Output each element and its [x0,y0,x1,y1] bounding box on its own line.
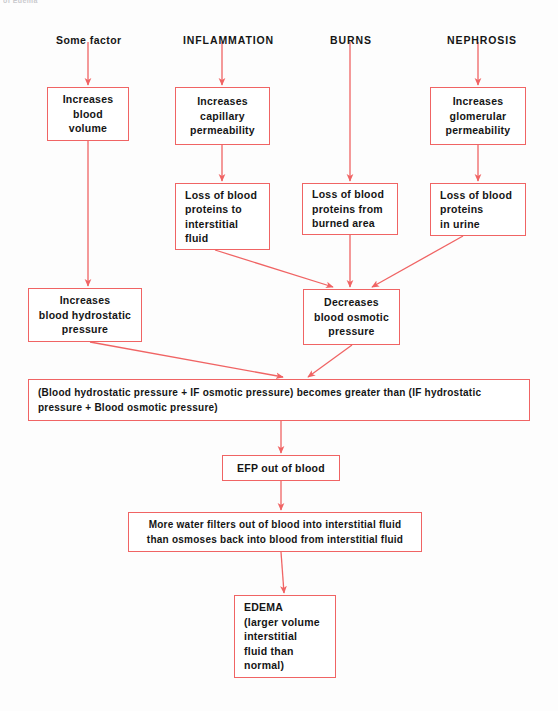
box-increases-blood-hydrostatic-pressure-line: blood hydrostatic [39,308,131,322]
box-increases-capillary-permeability-line: Increases [197,94,248,108]
box-increases-blood-hydrostatic-pressure-line: pressure [62,322,108,336]
box-decreases-blood-osmotic-pressure-line: pressure [328,324,374,338]
box-loss-proteins-interstitial-fluid-line: Loss of blood [185,188,257,202]
arrow-loss-urine-to-osmotic [372,236,463,287]
box-loss-proteins-interstitial-fluid-line: fluid [185,231,208,245]
box-decreases-blood-osmotic-pressure-line: blood osmotic [314,310,389,324]
box-increases-glomerular-permeability-line: Increases [453,94,504,108]
box-loss-proteins-burned-area-line: burned area [312,216,375,230]
box-edema-line: (larger volume [244,615,320,629]
box-edema: EDEMA(larger volumeinterstitialfluid tha… [234,595,336,678]
heading-nephrosis: NEPHROSIS [447,34,517,46]
arrow-loss-interstitial-to-osmotic [215,250,333,287]
box-pressure-inequality: (Blood hydrostatic pressure + IF osmotic… [28,379,530,421]
box-edema-line: normal) [244,658,284,672]
box-edema-line: interstitial [244,629,297,643]
box-decreases-blood-osmotic-pressure-line: Decreases [324,295,379,309]
box-loss-proteins-interstitial-fluid-line: proteins to [185,202,242,216]
box-increases-glomerular-permeability: Increasesglomerularpermeability [430,87,526,145]
box-loss-proteins-in-urine: Loss of bloodproteinsin urine [430,183,526,236]
box-loss-proteins-in-urine-line: Loss of blood [440,188,512,202]
box-efp-out-of-blood: EFP out of blood [222,455,340,481]
arrow-more-water-to-edema [281,552,284,593]
box-loss-proteins-burned-area-line: Loss of blood [312,187,384,201]
heading-burns: BURNS [330,34,372,46]
box-more-water-filters: More water filters out of blood into int… [128,512,422,552]
box-increases-glomerular-permeability-line: glomerular [450,109,507,123]
box-increases-blood-hydrostatic-pressure-line: Increases [60,293,111,307]
box-edema-line: fluid than [244,644,294,658]
box-loss-proteins-interstitial-fluid-line: interstitial [185,217,238,231]
box-edema-line: EDEMA [244,600,283,614]
box-pressure-inequality-line: pressure + Blood osmotic pressure) [38,400,218,415]
box-loss-proteins-interstitial-fluid: Loss of bloodproteins tointerstitialflui… [175,183,270,250]
flowchart-canvas: of Edema [0,0,558,711]
box-efp-out-of-blood-line: EFP out of blood [237,461,325,475]
box-increases-blood-volume-line: volume [69,121,107,135]
box-increases-capillary-permeability-line: capillary [200,109,245,123]
box-loss-proteins-burned-area: Loss of bloodproteins fromburned area [302,183,398,235]
box-pressure-inequality-line: (Blood hydrostatic pressure + IF osmotic… [38,385,481,400]
box-loss-proteins-in-urine-line: proteins [440,202,483,216]
box-increases-capillary-permeability: Increasescapillarypermeability [175,87,270,145]
box-loss-proteins-burned-area-line: proteins from [312,202,383,216]
box-loss-proteins-in-urine-line: in urine [440,217,480,231]
box-increases-blood-volume: Increasesbloodvolume [47,87,129,141]
box-more-water-filters-line: than osmoses back into blood from inters… [147,532,403,547]
box-increases-glomerular-permeability-line: permeability [446,123,511,137]
arrow-hydrostatic-to-inequality [90,342,283,377]
heading-some-factor: Some factor [56,34,122,46]
box-increases-capillary-permeability-line: permeability [190,123,255,137]
box-more-water-filters-line: More water filters out of blood into int… [149,517,402,532]
box-increases-blood-volume-line: blood [73,107,103,121]
box-decreases-blood-osmotic-pressure: Decreasesblood osmoticpressure [303,289,400,345]
cropped-header-text: of Edema [3,0,38,4]
heading-inflammation: INFLAMMATION [183,34,274,46]
box-increases-blood-hydrostatic-pressure: Increasesblood hydrostaticpressure [28,288,142,342]
arrow-osmotic-to-inequality [308,345,352,377]
box-increases-blood-volume-line: Increases [63,92,114,106]
